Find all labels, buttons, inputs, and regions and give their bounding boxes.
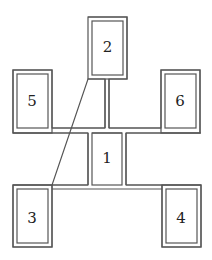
box-2-label: 2 [103, 38, 113, 56]
box-6-label: 6 [175, 92, 185, 110]
box-1-label: 1 [102, 149, 112, 167]
box-5-label: 5 [27, 92, 37, 110]
diagram-canvas: 2 5 6 1 3 4 [0, 0, 212, 260]
box-3-label: 3 [27, 209, 37, 227]
box-4-label: 4 [176, 209, 186, 227]
block-diagram: 2 5 6 1 3 4 [0, 0, 212, 260]
